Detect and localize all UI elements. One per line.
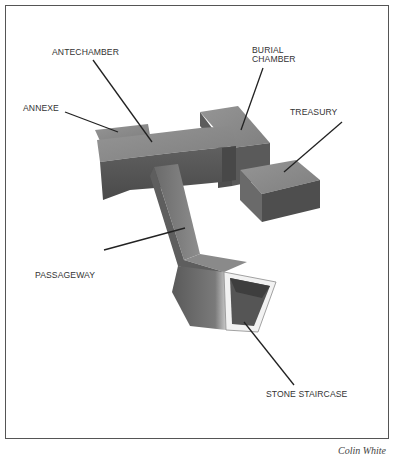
treasury-block bbox=[240, 160, 320, 222]
label-passageway: PASSAGEWAY bbox=[35, 271, 95, 280]
label-burial-chamber-line2: CHAMBER bbox=[252, 55, 296, 64]
burial-chamber-leader-line bbox=[241, 68, 263, 130]
treasury-leader-line bbox=[284, 122, 342, 172]
stone-staircase-leader-line bbox=[244, 322, 294, 385]
label-annexe: ANNEXE bbox=[23, 104, 59, 113]
label-treasury: TREASURY bbox=[290, 108, 337, 117]
label-antechamber: ANTECHAMBER bbox=[52, 48, 119, 57]
annexe-leader-line bbox=[65, 112, 118, 132]
stone-staircase-block bbox=[172, 266, 276, 332]
label-stone-staircase: STONE STAIRCASE bbox=[266, 390, 347, 399]
image-credit: Colin White bbox=[338, 445, 386, 456]
